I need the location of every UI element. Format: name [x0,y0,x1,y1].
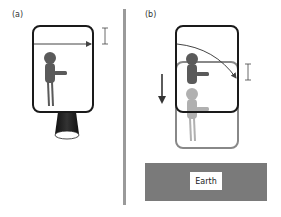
panel-divider [123,9,126,205]
elevator-box-a [33,26,93,112]
panel-a [33,26,108,139]
deflection-bracket-b [245,64,251,80]
person-b-later [186,88,209,141]
falling-arrow-icon [158,74,166,104]
earth-label: Earth [190,172,222,190]
person-a [44,52,67,106]
deflection-bracket-a [102,28,108,44]
rocket-thruster-icon [55,112,79,139]
diagram-canvas [0,0,281,217]
person-b-earlier [186,53,209,84]
